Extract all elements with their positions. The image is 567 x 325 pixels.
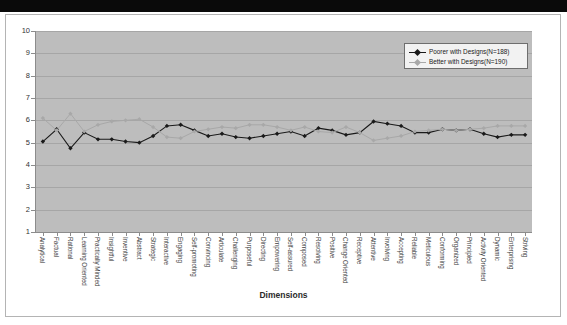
x-axis-tick [429, 232, 430, 236]
x-axis-tick-label: Empowering [273, 237, 279, 271]
chart-legend: Poorer with Designs (N=188) Better with … [404, 43, 528, 69]
gridline [36, 76, 532, 77]
x-axis-tick-label: Striving [521, 237, 527, 257]
x-axis-title: Dimensions [0, 290, 567, 300]
x-axis-tick [387, 232, 388, 236]
legend-n-poorer: (N=188) [486, 48, 509, 56]
x-axis-spine [35, 232, 532, 233]
x-axis-tick-label: Attentive [370, 237, 376, 261]
x-axis-tick [291, 232, 292, 236]
x-axis-tick [98, 232, 99, 236]
x-axis-tick [401, 232, 402, 236]
x-axis-tick [415, 232, 416, 236]
gridline [36, 165, 532, 166]
x-axis-tick [222, 232, 223, 236]
x-axis-tick-label: Learning Oriented [80, 237, 86, 286]
x-axis-tick [181, 232, 182, 236]
x-axis-tick-label: Challenging [232, 237, 238, 269]
y-axis-tick-label: 8 [6, 72, 30, 80]
x-axis-tick-label: Conforming [439, 237, 445, 269]
legend-item-poorer: Poorer with Designs (N=188) [409, 47, 523, 57]
x-axis-tick-label: Insightful [108, 237, 114, 261]
x-axis-tick [167, 232, 168, 236]
x-axis-tick-label: Factual [53, 237, 59, 257]
x-axis-tick [305, 232, 306, 236]
x-axis-tick-label: Reliable [411, 237, 417, 259]
x-axis-tick [484, 232, 485, 236]
y-axis-tick-label: 5 [6, 139, 30, 147]
y-axis-tick-label: 3 [6, 183, 30, 191]
x-axis-tick-label: Articulate [218, 237, 224, 262]
x-axis-tick [153, 232, 154, 236]
x-axis-tick-label: Purposeful [246, 237, 252, 266]
x-axis-tick [208, 232, 209, 236]
x-axis-tick [43, 232, 44, 236]
legend-label-better: Better with Designs [429, 58, 484, 66]
legend-marker-better-icon [409, 58, 426, 67]
x-axis-tick-label: Activity Oriented [480, 237, 486, 281]
x-axis-tick [360, 232, 361, 236]
x-axis-tick [70, 232, 71, 236]
y-axis-tick [31, 76, 36, 77]
y-axis-tick [31, 53, 36, 54]
x-axis-tick [57, 232, 58, 236]
y-axis-tick-label: 9 [6, 49, 30, 57]
x-axis-tick [277, 232, 278, 236]
x-axis-tick [456, 232, 457, 236]
x-axis-tick [332, 232, 333, 236]
x-axis-tick-label: Rational [67, 237, 73, 259]
y-axis-tick-label: 4 [6, 161, 30, 169]
gridline [36, 31, 532, 32]
gridline [36, 143, 532, 144]
x-axis-tick-label: Resolving [315, 237, 321, 264]
gridline [36, 187, 532, 188]
y-axis-tick [31, 210, 36, 211]
legend-n-better: (N=190) [484, 58, 507, 66]
x-axis-tick-label: Interactive [163, 237, 169, 265]
x-axis-tick-label: Strategic [149, 237, 155, 261]
x-axis-tick-label: Organized [452, 237, 458, 265]
x-axis-tick [236, 232, 237, 236]
y-axis-tick [31, 232, 36, 233]
x-axis-tick-label: Inventive [122, 237, 128, 261]
y-axis-tick [31, 98, 36, 99]
y-axis-tick-label: 6 [6, 116, 30, 124]
x-axis-tick-label: Abstract [135, 237, 141, 259]
y-axis-tick-label: 2 [6, 206, 30, 214]
x-axis-tick [126, 232, 127, 236]
x-axis-tick [84, 232, 85, 236]
x-axis-tick-label: Practically Minded [94, 237, 100, 286]
screenshot-root: 12345678910 AnalyticalFactualRationalLea… [0, 0, 567, 325]
x-axis-tick-label: Self-promoting [191, 237, 197, 277]
x-axis-tick-label: Composed [301, 237, 307, 267]
x-axis-tick-label: Analytical [39, 237, 45, 263]
gridline [36, 98, 532, 99]
x-axis-tick-label: Involving [383, 237, 389, 261]
x-axis-tick-label: Convincing [204, 237, 210, 267]
x-axis-tick [112, 232, 113, 236]
x-axis-tick-label: Enterprising [507, 237, 513, 269]
x-axis-tick [525, 232, 526, 236]
x-axis-tick [346, 232, 347, 236]
x-axis-tick-label: Engaging [177, 237, 183, 263]
gridline [36, 120, 532, 121]
x-axis-tick [374, 232, 375, 236]
x-axis-tick [263, 232, 264, 236]
gridline [36, 210, 532, 211]
x-axis-tick-label: Dynamic [494, 237, 500, 261]
y-axis-tick-label: 10 [6, 27, 30, 35]
x-axis-tick-label: Principled [466, 237, 472, 264]
y-axis-tick [31, 165, 36, 166]
y-axis-tick-label: 1 [6, 228, 30, 236]
legend-item-better: Better with Designs (N=190) [409, 57, 523, 67]
x-axis-tick-label: Directing [259, 237, 265, 261]
line-chart: 12345678910 AnalyticalFactualRationalLea… [0, 0, 567, 325]
x-axis-tick [470, 232, 471, 236]
y-axis-tick [31, 120, 36, 121]
x-axis-tick-label: Meticulous [425, 237, 431, 266]
x-axis-tick-label: Positive [328, 237, 334, 258]
x-axis-tick-label: Accepting [397, 237, 403, 264]
y-axis-tick [31, 143, 36, 144]
x-axis-tick [139, 232, 140, 236]
y-axis-spine [35, 31, 36, 233]
